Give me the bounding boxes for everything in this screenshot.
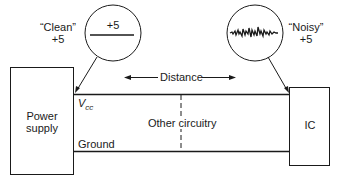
noisy-quote: “Noisy” <box>284 21 328 33</box>
other-circuitry-label: Other circuitry <box>147 117 217 129</box>
vcc-label: Vcc <box>78 97 93 111</box>
power-supply-label-line1: Power <box>11 110 73 122</box>
ground-label: Ground <box>78 138 115 150</box>
distance-arrow-left-head <box>124 75 131 80</box>
clean-callout-label: “Clean” +5 <box>36 21 80 45</box>
ic-label: IC <box>290 119 330 131</box>
clean-leader-line <box>77 57 97 90</box>
vcc-label-subscript: cc <box>85 103 93 112</box>
noisy-signal-waveform <box>230 27 278 37</box>
distance-label: Distance <box>160 71 203 83</box>
power-supply-label-line2: supply <box>11 122 73 134</box>
clean-inset-value: +5 <box>100 19 126 31</box>
noisy-callout-label: “Noisy” +5 <box>284 21 328 45</box>
clean-value: +5 <box>36 33 80 45</box>
noisy-value: +5 <box>284 33 328 45</box>
noisy-leader-line <box>268 57 287 90</box>
distance-arrow-right-head <box>229 75 236 80</box>
power-supply-label: Power supply <box>11 110 73 134</box>
clean-quote: “Clean” <box>36 21 80 33</box>
clean-signal-circle <box>85 5 141 61</box>
